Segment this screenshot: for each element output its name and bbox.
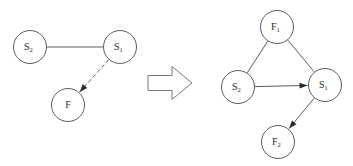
before-graph: S2S1F: [14, 31, 137, 122]
after-graph: F1S2S1F2: [222, 11, 342, 159]
after-graph-arrowhead-S1-F2: [289, 120, 296, 128]
after-graph-nodes: F1S2S1F2: [222, 11, 342, 159]
before-graph-node-S1: S1: [104, 31, 137, 64]
diagram-canvas: S2S1F F1S2S1F2: [0, 0, 353, 166]
after-graph-edge-S2-F1: [247, 41, 267, 72]
figure-root: S2S1F F1S2S1F2: [0, 0, 353, 166]
before-graph-nodes: S2S1F: [14, 31, 137, 122]
after-graph-edges: [247, 40, 314, 128]
after-graph-node-F1: F1: [261, 11, 294, 44]
after-graph-node-F1-subscript: 1: [277, 25, 280, 32]
implies-arrow: [148, 67, 192, 100]
before-graph-node-F: F: [52, 89, 85, 122]
after-graph-node-S1-subscript: 1: [325, 83, 328, 90]
before-graph-node-F-label: F: [65, 99, 71, 110]
before-graph-node-S2: S2: [14, 31, 47, 64]
after-graph-edge-F1-S1: [288, 40, 314, 72]
before-graph-edges: [47, 47, 108, 92]
after-graph-arrowhead-S2-S1: [299, 83, 307, 89]
after-graph-node-S2-subscript: 2: [238, 85, 241, 92]
after-graph-node-S1: S1: [309, 69, 342, 102]
before-graph-node-S2-subscript: 2: [30, 45, 33, 52]
after-graph-node-S2: S2: [222, 71, 255, 104]
before-graph-node-S1-subscript: 1: [120, 45, 123, 52]
after-graph-node-F2-subscript: 2: [278, 140, 281, 147]
implies-arrow-shape: [148, 67, 192, 100]
after-graph-node-F2: F2: [262, 126, 295, 159]
